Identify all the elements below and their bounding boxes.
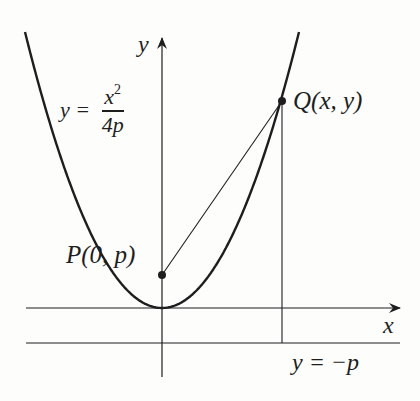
point-q [278, 97, 286, 105]
focus-label: P(0, p) [66, 242, 135, 267]
fraction-denominator: 4p [102, 114, 124, 136]
numerator-exponent: 2 [114, 82, 121, 97]
y-axis-label: y [138, 32, 149, 56]
equation-lhs: y = [60, 97, 90, 122]
numerator-text: x [104, 84, 114, 109]
segment-pq [162, 101, 282, 275]
focus-point [158, 271, 166, 279]
diagram-canvas [0, 0, 420, 401]
parabola-diagram: y x y = x2 4p Q(x, y) P(0, p) y = −p [0, 0, 420, 401]
point-q-label: Q(x, y) [293, 88, 362, 113]
x-axis-label: x [383, 313, 394, 337]
equation-fraction: x2 4p [102, 85, 124, 136]
curve-equation: y = x2 4p [60, 85, 124, 136]
fraction-numerator: x2 [102, 85, 124, 108]
directrix-label: y = −p [292, 350, 359, 374]
